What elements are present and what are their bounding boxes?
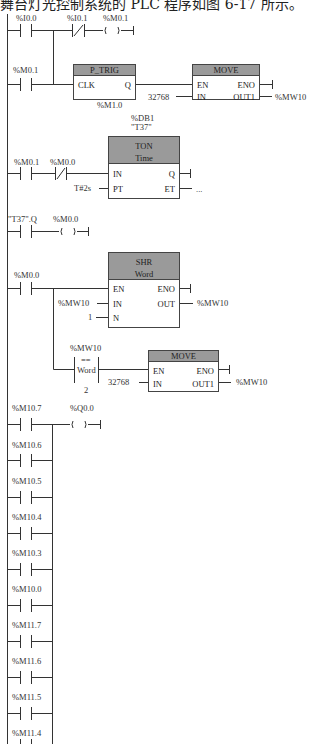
ton-pt-pin: PT <box>113 184 123 194</box>
move2-en-pin: EN <box>153 366 164 376</box>
shr-title: SHR Word <box>109 253 179 280</box>
ton-et-pin: ET <box>165 184 175 194</box>
move2-in-value: 32768 <box>108 377 129 387</box>
coil-label-m0-0: %M0.0 <box>53 214 78 224</box>
ton-et-value: ... <box>196 184 202 194</box>
contact-label-m0-1: %M0.1 <box>13 65 38 75</box>
p-trig-title: P_TRIG <box>74 65 135 76</box>
contact-label-m0-0-nc: %M0.0 <box>50 157 75 167</box>
contact-label-m11-6: %M11.6 <box>12 656 41 666</box>
shr-title-op: SHR <box>109 256 179 268</box>
contact-label-i0-1: %I0.1 <box>67 13 88 23</box>
p-trig-q-pin: Q <box>125 80 131 90</box>
ton-q-pin: Q <box>169 169 175 179</box>
p-trig-bit-label: %M1.0 <box>97 100 122 110</box>
shr-eno-pin: ENO <box>158 284 175 294</box>
move-block-2: MOVE EN ENO IN OUT1 <box>148 350 219 392</box>
compare-datatype: Word <box>77 365 96 375</box>
shr-in-pin: IN <box>113 299 122 309</box>
contact-label-m11-4: %M11.4 <box>12 728 41 738</box>
contact-label-m10-5: %M10.5 <box>12 476 42 486</box>
contact-label-m0-1-b: %M0.1 <box>14 157 39 167</box>
move-out-pin: OUT1 <box>233 92 255 102</box>
shr-title-datatype: Word <box>109 268 179 280</box>
ton-instance-name: "T37" <box>131 122 152 132</box>
shr-out-pin: OUT <box>158 299 175 309</box>
contact-label-i0-0: %I0.0 <box>16 13 37 23</box>
compare-operator: == <box>81 355 91 365</box>
compare-operand2: 2 <box>84 385 88 395</box>
contact-label-m10-7: %M10.7 <box>12 403 42 413</box>
ton-timer-block: TON Time IN Q PT ET <box>108 136 180 199</box>
ton-title-datatype: Time <box>109 152 179 164</box>
contact-label-m10-6: %M10.6 <box>12 440 42 450</box>
p-trig-block: P_TRIG CLK Q <box>73 64 136 100</box>
contact-label-m11-7: %M11.7 <box>12 620 41 630</box>
move-en-pin: EN <box>197 80 208 90</box>
shr-n-value: 1 <box>88 312 92 322</box>
p-trig-clk-pin: CLK <box>78 80 95 90</box>
move-block-1: MOVE EN ENO IN OUT1 <box>192 64 260 100</box>
coil-label-q0-0: %Q0.0 <box>70 403 94 413</box>
contact-label-m11-5: %M11.5 <box>12 692 41 702</box>
contact-label-m0-0: %M0.0 <box>14 270 39 280</box>
shr-out-value: %MW10 <box>197 298 228 308</box>
move2-title: MOVE <box>149 351 218 362</box>
contact-label-m10-3: %M10.3 <box>12 548 42 558</box>
shr-n-pin: N <box>113 313 119 323</box>
move2-in-pin: IN <box>153 379 162 389</box>
shr-block: SHR Word EN ENO IN OUT N <box>108 252 180 328</box>
move2-out-value: %MW10 <box>236 377 267 387</box>
ton-in-pin: IN <box>113 169 122 179</box>
move2-out-pin: OUT1 <box>192 379 214 389</box>
shr-in-value: %MW10 <box>58 298 89 308</box>
move-eno-pin: ENO <box>238 80 255 90</box>
shr-en-pin: EN <box>113 284 124 294</box>
move-title: MOVE <box>193 65 259 76</box>
contact-label-m10-4: %M10.4 <box>12 512 42 522</box>
coil-label-m0-1: %M0.1 <box>103 13 128 23</box>
ton-pt-value: T#2s <box>74 183 91 193</box>
move-in-pin: IN <box>197 92 206 102</box>
move-in-value: 32768 <box>148 92 169 102</box>
ton-title: TON Time <box>109 137 179 164</box>
ton-title-type: TON <box>109 140 179 152</box>
move-out-value: %MW10 <box>275 92 306 102</box>
contact-label-t37-q: "T37".Q <box>8 214 37 224</box>
contact-m10-7 <box>8 418 32 431</box>
compare-operand1: %MW10 <box>70 343 101 353</box>
move2-eno-pin: ENO <box>197 366 214 376</box>
contact-label-m10-0: %M10.0 <box>12 584 42 594</box>
